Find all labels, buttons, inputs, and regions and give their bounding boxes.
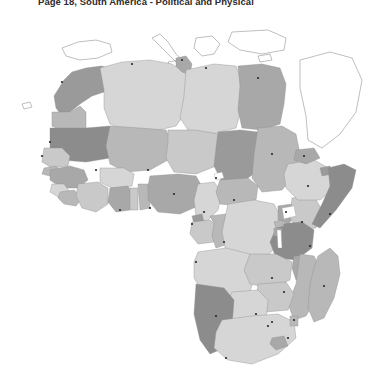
- city-dot: [147, 169, 149, 171]
- city-dot: [95, 169, 97, 171]
- city-dot: [173, 193, 175, 195]
- city-dot: [225, 357, 227, 359]
- city-dot: [203, 211, 205, 213]
- city-dot: [61, 81, 63, 83]
- page-title: Page 18, South America - Political and P…: [38, 0, 254, 7]
- city-dot: [181, 59, 183, 61]
- city-dot: [323, 285, 325, 287]
- country-region[interactable]: [180, 64, 242, 134]
- city-dot: [223, 241, 225, 243]
- city-dot: [309, 245, 311, 247]
- city-dot: [41, 155, 43, 157]
- lake-region: [277, 230, 282, 248]
- city-dot: [271, 321, 273, 323]
- city-dot: [307, 185, 309, 187]
- city-dot: [191, 223, 193, 225]
- city-dot: [301, 221, 303, 223]
- city-dot: [205, 67, 207, 69]
- city-dot: [271, 153, 273, 155]
- city-dot: [287, 337, 289, 339]
- map-canvas[interactable]: [0, 8, 369, 367]
- city-dot: [293, 319, 295, 321]
- city-dot: [257, 77, 259, 79]
- city-dot: [233, 199, 235, 201]
- africa-map-svg[interactable]: [0, 8, 369, 367]
- city-dot: [303, 155, 305, 157]
- map-page: Page 18, South America - Political and P…: [0, 0, 369, 367]
- country-region[interactable]: [100, 60, 190, 132]
- country-region[interactable]: [130, 188, 138, 210]
- city-dot: [285, 211, 287, 213]
- city-dot: [267, 325, 269, 327]
- city-dot: [271, 277, 273, 279]
- city-dot: [215, 315, 217, 317]
- city-dot: [149, 207, 151, 209]
- city-dot: [283, 291, 285, 293]
- city-dot: [255, 313, 257, 315]
- city-dot: [49, 141, 51, 143]
- country-region[interactable]: [238, 64, 286, 130]
- city-dot: [119, 209, 121, 211]
- city-dot: [329, 213, 331, 215]
- city-dot: [195, 261, 197, 263]
- title-bar: Page 18, South America - Political and P…: [0, 0, 369, 9]
- city-dot: [131, 63, 133, 65]
- city-dot: [215, 177, 217, 179]
